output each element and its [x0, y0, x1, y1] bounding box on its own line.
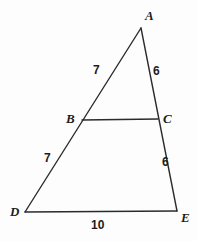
base-DE [25, 211, 177, 212]
measure-label-ac: 6 [153, 65, 160, 77]
vertex-label-b: B [66, 112, 75, 125]
measure-label-ce: 6 [162, 156, 169, 168]
measure-label-bd: 7 [44, 152, 51, 164]
vertex-label-a: A [145, 9, 154, 22]
vertex-label-d: D [10, 205, 19, 218]
segment-BC [82, 119, 158, 120]
measure-label-ab: 7 [93, 64, 100, 76]
vertex-label-e: E [181, 211, 190, 224]
vertex-label-c: C [163, 112, 172, 125]
geometry-figure: A B C D E 7 6 7 6 10 [0, 0, 197, 241]
measure-label-de: 10 [91, 219, 104, 231]
